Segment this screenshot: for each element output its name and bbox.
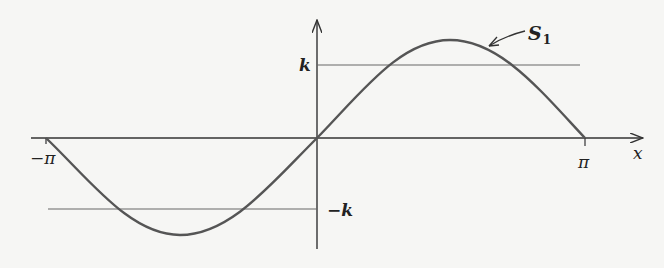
- label-k: k: [299, 57, 311, 74]
- label-neg-k: −k: [327, 202, 353, 219]
- curve-label-subscript: 1: [543, 33, 551, 47]
- sine-plot: [0, 0, 664, 268]
- label-pointer: [489, 31, 525, 46]
- curve-label: S1: [528, 24, 551, 46]
- diagram-canvas: S1 k −k −π π x: [0, 0, 664, 268]
- label-pi: π: [578, 154, 589, 171]
- label-neg-pi: −π: [30, 150, 55, 167]
- label-x-axis: x: [633, 145, 643, 162]
- curve-label-main: S: [528, 22, 542, 44]
